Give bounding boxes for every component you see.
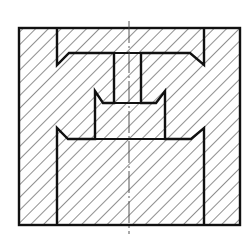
- hatched-material: [0, 0, 251, 248]
- drawing-canvas: Sectional view of stepped bore part: [0, 0, 251, 248]
- section-drawing: [0, 0, 251, 248]
